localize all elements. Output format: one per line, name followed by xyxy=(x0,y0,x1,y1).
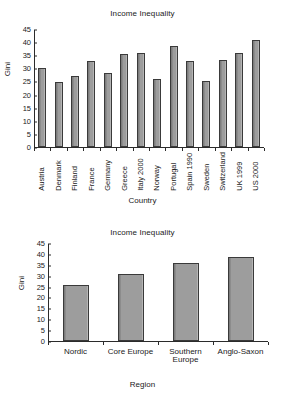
x-axis-label-cell: Spain 1990 xyxy=(182,152,198,191)
bar[interactable] xyxy=(55,82,63,147)
x-axis-tick-mark xyxy=(48,342,49,345)
x-axis-labels-bottom: NordicCore EuropeSouthernEuropeAnglo-Sax… xyxy=(48,348,268,365)
x-axis-tick-mark xyxy=(198,148,199,151)
x-axis-tick-mark xyxy=(213,342,214,345)
y-axis-tick-label: 5 xyxy=(27,131,34,139)
bar-slot xyxy=(48,244,103,341)
y-axis-tick-label: 40 xyxy=(23,39,34,47)
x-axis-label-cell: Italy 2000 xyxy=(133,152,149,191)
bar[interactable] xyxy=(63,285,89,341)
x-axis-label-cell: Finland xyxy=(67,152,83,191)
x-axis-tick-label: Greece xyxy=(121,152,129,191)
y-axis-tick-label: 10 xyxy=(23,118,34,126)
x-axis-tick-mark xyxy=(149,148,150,151)
bar[interactable] xyxy=(137,53,145,147)
x-axis-tick-label: Norway xyxy=(153,152,161,191)
y-axis-tick-label: 5 xyxy=(41,327,48,335)
y-axis-tick-label: 0 xyxy=(41,338,48,346)
bar-slot xyxy=(149,30,165,147)
x-axis-tick-mark xyxy=(103,342,104,345)
y-axis-tick-label: 40 xyxy=(37,251,48,259)
x-axis-tick-mark xyxy=(100,148,101,151)
y-axis-tick-label: 35 xyxy=(37,262,48,270)
bar[interactable] xyxy=(87,61,95,147)
x-axis-tick-label-line: Europe xyxy=(169,356,201,364)
x-axis-tick-mark xyxy=(268,342,269,345)
y-axis-tick-label: 25 xyxy=(23,79,34,87)
bar-slot xyxy=(116,30,132,147)
x-axis-label-cell: Nordic xyxy=(48,348,103,365)
y-axis-title-top: Gini xyxy=(3,62,12,76)
bar[interactable] xyxy=(235,53,243,147)
x-axis-tick-mark xyxy=(264,148,265,151)
bar[interactable] xyxy=(120,54,128,147)
y-axis-tick-label: 20 xyxy=(23,92,34,100)
x-axis-tick-label: Austria xyxy=(38,152,46,191)
x-axis-tick-label: Finland xyxy=(71,152,79,191)
bar[interactable] xyxy=(118,274,144,342)
x-axis-tick-label: Sweden xyxy=(203,152,211,191)
x-axis-tick-label: SouthernEurope xyxy=(169,348,201,365)
x-axis-label-cell: UK 1999 xyxy=(231,152,247,191)
bar-slot xyxy=(133,30,149,147)
bar-slot xyxy=(50,30,66,147)
bar[interactable] xyxy=(173,263,199,341)
bar-slot xyxy=(215,30,231,147)
x-axis-tick-label: Core Europe xyxy=(108,348,153,365)
x-axis-tick-label: France xyxy=(88,152,96,191)
x-axis-tick-label: Switzerland xyxy=(219,152,227,191)
x-axis-tick-mark xyxy=(116,148,117,151)
bar[interactable] xyxy=(252,40,260,147)
x-axis-label-cell: SouthernEurope xyxy=(158,348,213,365)
x-axis-tick-label: UK 1999 xyxy=(236,152,244,191)
bar-slot xyxy=(34,30,50,147)
x-axis-label-cell: Core Europe xyxy=(103,348,158,365)
bar-slot xyxy=(83,30,99,147)
chart-income-inequality-by-region: Income Inequality Gini 45403530252015105… xyxy=(0,212,285,401)
x-axis-label-cell: Austria xyxy=(34,152,50,191)
x-axis-labels-top: AustriaDenmarkFinlandFranceGermanyGreece… xyxy=(34,152,264,191)
x-axis-label-cell: US 2000 xyxy=(247,152,263,191)
x-axis-label-cell: Norway xyxy=(149,152,165,191)
y-axis-tick-label: 45 xyxy=(23,26,34,34)
x-axis-tick-label-line: Core Europe xyxy=(108,348,153,356)
y-axis-tick-label: 20 xyxy=(37,295,48,303)
y-axis-tick-label: 30 xyxy=(37,273,48,281)
bar[interactable] xyxy=(153,79,161,147)
x-axis-tick-label: Portugal xyxy=(170,152,178,191)
plot-area-bottom: 454035302520151050 xyxy=(48,244,268,342)
bar[interactable] xyxy=(71,76,79,147)
y-axis-tick-label: 15 xyxy=(23,105,34,113)
x-axis-tick-label: US 2000 xyxy=(252,152,260,191)
x-axis-label-cell: France xyxy=(83,152,99,191)
x-axis-tick-mark xyxy=(34,148,35,151)
y-axis-tick-label: 30 xyxy=(23,66,34,74)
y-axis-tick-label: 10 xyxy=(37,316,48,324)
bar[interactable] xyxy=(38,68,46,147)
bar-slot xyxy=(100,30,116,147)
bar[interactable] xyxy=(186,61,194,147)
x-axis-label-cell: Sweden xyxy=(198,152,214,191)
x-axis-tick-mark xyxy=(67,148,68,151)
x-axis-label-cell: Germany xyxy=(100,152,116,191)
y-axis-tick-label: 15 xyxy=(37,306,48,314)
bar[interactable] xyxy=(228,257,254,341)
x-axis-tick-label: Spain 1990 xyxy=(186,152,194,191)
bar[interactable] xyxy=(104,73,112,147)
chart-title-top: Income Inequality xyxy=(0,9,285,18)
y-axis-title-bottom: Gini xyxy=(17,276,26,290)
x-axis-tick-mark xyxy=(133,148,134,151)
x-axis-tick-mark xyxy=(248,148,249,151)
x-axis-tick-mark xyxy=(83,148,84,151)
bar[interactable] xyxy=(202,81,210,147)
x-axis-title-bottom: Region xyxy=(0,380,285,389)
bar[interactable] xyxy=(219,60,227,147)
bar[interactable] xyxy=(170,46,178,147)
x-axis-label-cell: Greece xyxy=(116,152,132,191)
bar-slot xyxy=(231,30,247,147)
x-axis-label-cell: Switzerland xyxy=(215,152,231,191)
x-axis-tick-mark xyxy=(165,148,166,151)
x-axis-tick-label-line: Nordic xyxy=(64,348,87,356)
bar-slot xyxy=(182,30,198,147)
x-axis-tick-mark xyxy=(50,148,51,151)
